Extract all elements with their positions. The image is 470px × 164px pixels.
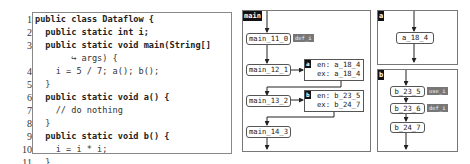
call-node-b: b en: b_23_5 ex: b_24_7 — [304, 90, 364, 112]
use-badge: use_i — [427, 87, 448, 95]
call-exit: ex: a_18_4 — [317, 69, 360, 79]
cfg-node-main_13_2: main_13_2 — [246, 95, 291, 107]
call-tag-a: a — [305, 60, 311, 68]
call-exit: ex: b_24_7 — [317, 100, 360, 110]
edges — [0, 0, 470, 164]
cfg-node-b_24_7: b_24_7 — [390, 122, 425, 133]
cfg-node-main_12_1: main_12_1 — [246, 64, 291, 76]
call-tag-b: b — [305, 91, 311, 99]
call-node-a: a en: a_18_4 ex: a_18_4 — [304, 59, 364, 81]
def-badge: def_i — [427, 104, 448, 112]
cfg-node-b_23_6: b_23_6 — [390, 103, 425, 114]
cfg-node-a_18_4: a_18_4 — [396, 32, 434, 44]
cfg-node-main_11_0: main_11_0 — [246, 33, 291, 45]
cfg-node-main_14_3: main_14_3 — [246, 126, 291, 138]
def-badge: def_i — [293, 34, 314, 42]
cfg-node-b_23_5: b_23_5 — [390, 86, 425, 97]
